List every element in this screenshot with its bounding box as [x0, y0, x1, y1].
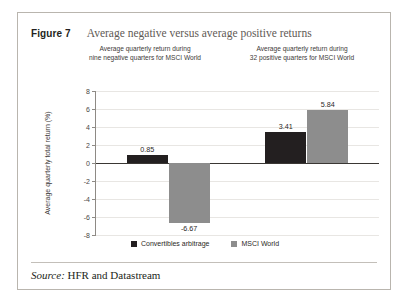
footer-divider: [31, 262, 377, 263]
chart-legend: Convertibles arbitrageMSCI World: [18, 240, 392, 247]
y-tick: [92, 91, 96, 92]
y-tick-label: 4: [86, 124, 90, 131]
legend-swatch-icon: [231, 241, 237, 247]
bar-value-label: 5.84: [307, 100, 348, 109]
plot-area: 86420-2-4-6-8 0.85-6.673.415.84: [96, 91, 379, 235]
y-tick-label: -8: [84, 232, 90, 239]
legend-item: MSCI World: [231, 240, 279, 247]
y-tick-label: 8: [86, 88, 90, 95]
gridline: [96, 181, 379, 182]
figure-title: Average negative versus average positive…: [87, 27, 312, 39]
y-tick: [92, 217, 96, 218]
y-tick: [92, 181, 96, 182]
figure-number: Figure 7: [31, 28, 71, 39]
bar: [169, 163, 210, 223]
chart-area: Average quarterly return during nine neg…: [18, 43, 392, 258]
figure-frame: Figure 7 Average negative versus average…: [17, 12, 391, 290]
legend-item: Convertibles arbitrage: [131, 240, 209, 247]
y-tick: [92, 109, 96, 110]
group-caption-negative: Average quarterly return during nine neg…: [62, 45, 228, 62]
y-tick: [92, 127, 96, 128]
bar-value-label: -6.67: [169, 224, 210, 233]
bar: [127, 155, 168, 163]
bar: [307, 110, 348, 163]
gridline: [96, 199, 379, 200]
bar: [265, 132, 306, 163]
legend-swatch-icon: [131, 241, 137, 247]
source-label: Source:: [31, 269, 65, 281]
y-tick: [92, 235, 96, 236]
source-text: HFR and Datastream: [68, 269, 161, 281]
y-tick-label: -2: [84, 178, 90, 185]
gridline: [96, 217, 379, 218]
legend-label: Convertibles arbitrage: [141, 240, 209, 247]
y-tick: [92, 145, 96, 146]
zero-line: [96, 163, 379, 164]
y-tick-label: -4: [84, 196, 90, 203]
y-tick: [92, 199, 96, 200]
y-tick-label: 0: [86, 160, 90, 167]
y-tick-label: 6: [86, 106, 90, 113]
gridline: [96, 91, 379, 92]
figure-header: Figure 7 Average negative versus average…: [31, 23, 380, 39]
group-caption-positive: Average quarterly return during 32 posit…: [216, 45, 388, 62]
gridline: [96, 235, 379, 236]
y-axis-title: Average quarterly total return (%): [44, 91, 55, 235]
y-tick-label: 2: [86, 142, 90, 149]
bar-value-label: 3.41: [265, 122, 306, 131]
plot-inner: 86420-2-4-6-8 0.85-6.673.415.84: [96, 91, 379, 235]
y-tick-label: -6: [84, 214, 90, 221]
legend-label: MSCI World: [241, 240, 279, 247]
bar-value-label: 0.85: [127, 145, 168, 154]
source-line: Source: HFR and Datastream: [31, 269, 160, 281]
